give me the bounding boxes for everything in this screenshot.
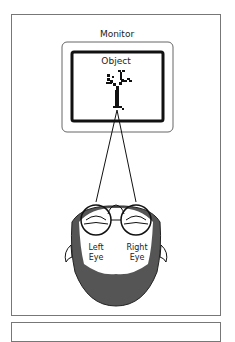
right-eye-label-line2: Eye [130,253,145,262]
left-eye-label-line2: Eye [89,253,104,262]
monitor-label: Monitor [100,29,135,39]
right-eye-label-line1: Right [126,243,147,252]
left-eye-label-line1: Left [88,243,103,252]
object-label: Object [101,56,131,66]
